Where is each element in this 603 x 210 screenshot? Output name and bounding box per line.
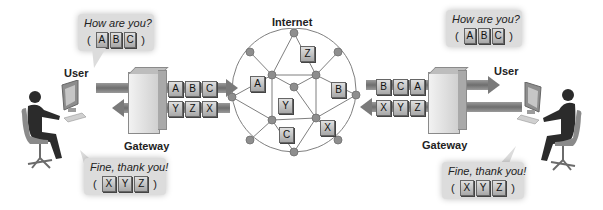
right-answer-text: Fine, thank you!	[448, 165, 518, 177]
right-gateway-server-icon	[428, 72, 460, 134]
right-question-packets: ( A B C )	[452, 28, 516, 44]
left-gateway-server-icon	[128, 72, 160, 134]
packet: C	[492, 28, 504, 44]
left-outgoing-packets: A B C	[168, 81, 217, 97]
left-speech-bubble-question: How are you? ( A B C )	[78, 14, 154, 51]
packet: B	[110, 32, 122, 48]
right-speech-bubble-question: How are you? ( A B C )	[446, 10, 522, 47]
packet: C	[202, 81, 217, 97]
packet: X	[102, 176, 116, 192]
packet: Y	[118, 176, 132, 192]
packet: Z	[134, 176, 148, 192]
left-incoming-arrowhead	[112, 99, 124, 117]
packet: B	[185, 81, 200, 97]
packet: B	[376, 79, 391, 95]
left-question-packets: ( A B C )	[84, 32, 148, 48]
open-paren: (	[452, 30, 462, 42]
open-paren: (	[448, 182, 458, 194]
right-outgoing-arrowhead	[360, 98, 372, 116]
right-question-text: How are you?	[452, 13, 516, 25]
packet: C	[393, 79, 408, 95]
left-answer-text: Fine, thank you!	[90, 161, 160, 173]
right-incoming-arrowhead	[488, 76, 500, 94]
packet: X	[376, 100, 391, 116]
right-answer-packets: ( X Y Z )	[448, 180, 518, 196]
close-paren: )	[138, 34, 148, 46]
transit-packet-x: X	[320, 120, 335, 136]
left-question-text: How are you?	[84, 17, 148, 29]
packet: Z	[410, 100, 425, 116]
right-incoming-packets: B C A	[376, 79, 425, 95]
left-user-label: User	[64, 67, 88, 79]
right-speech-bubble-answer: Fine, thank you! ( X Y Z )	[442, 162, 524, 199]
left-speech-bubble-answer: Fine, thank you! ( X Y Z )	[84, 158, 166, 195]
packet: C	[124, 32, 136, 48]
left-incoming-packets: Y Z X	[168, 101, 217, 117]
packet: Y	[168, 101, 183, 117]
packet: A	[168, 81, 183, 97]
transit-packet-c: C	[279, 127, 294, 143]
internet-label: Internet	[272, 16, 312, 28]
packet: Y	[393, 100, 408, 116]
packet: A	[96, 32, 108, 48]
transit-packet-a: A	[250, 76, 265, 92]
transit-packet-z: Z	[300, 46, 315, 62]
close-paren: )	[508, 182, 518, 194]
left-bubble-tail	[90, 48, 110, 70]
open-paren: (	[84, 34, 94, 46]
left-answer-packets: ( X Y Z )	[90, 176, 160, 192]
packet: A	[464, 28, 476, 44]
packet: Y	[476, 180, 490, 196]
open-paren: (	[90, 178, 100, 190]
right-user-at-computer-icon	[510, 82, 585, 172]
packet: B	[478, 28, 490, 44]
packet: Z	[185, 101, 200, 117]
left-outgoing-arrowhead	[226, 79, 238, 97]
close-paren: )	[150, 178, 160, 190]
left-gateway-label: Gateway	[124, 140, 169, 152]
transit-packet-y: Y	[278, 98, 293, 114]
right-gateway-label: Gateway	[422, 139, 467, 151]
packet: A	[410, 79, 425, 95]
packet: X	[202, 101, 217, 117]
close-paren: )	[506, 30, 516, 42]
packet: Z	[492, 180, 506, 196]
packet: X	[460, 180, 474, 196]
transit-packet-b: B	[331, 82, 346, 98]
right-outgoing-packets: X Y Z	[376, 100, 425, 116]
